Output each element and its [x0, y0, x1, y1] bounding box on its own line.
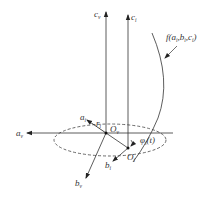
label-r-i: ri: [96, 118, 102, 129]
radius-line: [106, 133, 128, 148]
label-o-i: Oi: [127, 152, 136, 163]
b-i-axis: [113, 148, 128, 161]
label-c-v: cv: [94, 9, 101, 20]
label-o-v: Ov: [110, 124, 120, 135]
curve-pointer: [165, 46, 177, 58]
b-v-axis: [86, 133, 106, 178]
origin-i-dot: [127, 147, 130, 150]
label-a-i: ai: [80, 112, 87, 123]
label-c-i: ci: [131, 12, 137, 23]
label-b-i: bi: [105, 160, 112, 171]
origin-v-dot: [105, 132, 108, 135]
label-phi: φi(t): [140, 135, 155, 146]
label-a-v: av: [16, 128, 24, 139]
label-curve-f: f(ai,bi,ci): [166, 32, 197, 43]
label-b-v: bv: [75, 178, 83, 189]
coordinate-diagram: cv ci f(ai,bi,ci) av ai ri Ov φi(t) Oi b…: [0, 0, 218, 202]
angle-arc: [131, 140, 133, 146]
